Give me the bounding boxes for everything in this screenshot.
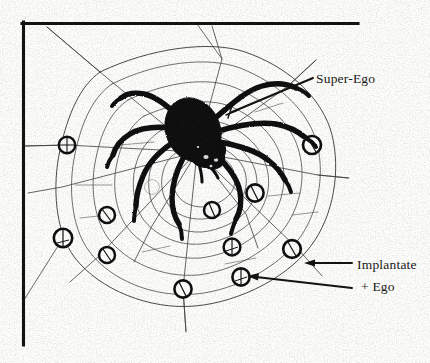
implantate-arrow <box>304 259 352 266</box>
node-marker <box>283 240 301 258</box>
node-marker <box>54 229 72 247</box>
node-marker <box>59 137 75 153</box>
label-implantate: Implantate <box>357 257 417 273</box>
label-super-ego: Super-Ego <box>316 71 375 87</box>
node-marker <box>145 180 160 195</box>
figure-canvas: Super-Ego Implantate + Ego <box>0 0 430 363</box>
node-marker <box>174 280 191 297</box>
diagram-svg <box>0 0 430 363</box>
node-marker <box>224 239 241 256</box>
frame-corner-rule <box>22 22 358 345</box>
node-marker <box>99 247 115 263</box>
node-marker <box>99 207 115 223</box>
node-marker <box>204 202 220 218</box>
label-plus-ego: + Ego <box>361 279 395 295</box>
node-marker <box>246 184 263 201</box>
node-marker <box>232 268 249 285</box>
